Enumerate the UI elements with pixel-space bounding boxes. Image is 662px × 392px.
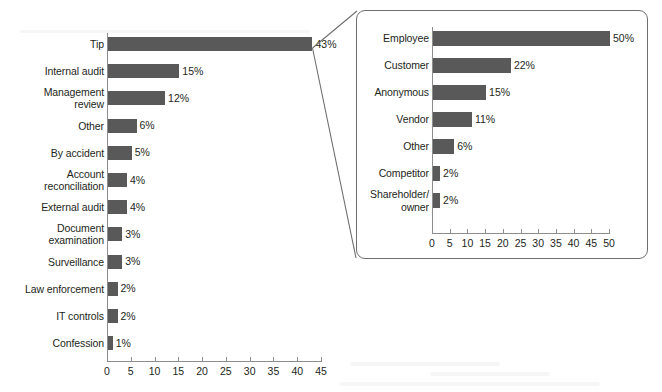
bar-value-label: 5% <box>135 147 150 158</box>
category-label: Employee <box>349 32 429 44</box>
bar-value-label: 15% <box>182 66 203 77</box>
bar <box>108 91 165 105</box>
x-axis-tick-label: 30 <box>532 238 544 249</box>
bar <box>108 37 312 51</box>
x-axis-tick <box>591 229 592 234</box>
bar-value-label: 12% <box>168 93 189 104</box>
x-axis-tick <box>574 229 575 234</box>
bar <box>108 119 137 133</box>
x-axis-tick <box>609 229 610 234</box>
category-label: Document examination <box>4 222 104 246</box>
bar-value-label: 11% <box>475 114 495 125</box>
category-label: Vendor <box>349 113 429 125</box>
bar-value-label: 3% <box>125 256 140 267</box>
x-axis-tick-label: 5 <box>128 366 134 377</box>
inset-callout-box <box>356 10 648 259</box>
scan-artifact <box>340 382 600 386</box>
x-axis-tick-label: 5 <box>447 238 453 249</box>
x-axis-tick <box>107 357 108 362</box>
bar <box>433 58 511 73</box>
x-axis-line <box>107 361 321 362</box>
category-label: Other <box>4 120 104 132</box>
bar <box>108 309 118 323</box>
scan-artifact <box>20 30 310 33</box>
figure-root: 051015202530354045Tip43%Internal audit15… <box>0 0 662 392</box>
x-axis-tick <box>178 357 179 362</box>
x-axis-tick <box>450 229 451 234</box>
bar-value-label: 2% <box>443 195 458 206</box>
x-axis-tick-label: 35 <box>268 366 280 377</box>
bar-value-label: 43% <box>315 39 336 50</box>
category-label: By accident <box>4 147 104 159</box>
bar-value-label: 2% <box>121 311 136 322</box>
category-label: Confession <box>4 337 104 349</box>
x-axis-tick-label: 15 <box>479 238 491 249</box>
category-label: Customer <box>349 59 429 71</box>
category-label: Account reconciliation <box>4 168 104 192</box>
x-axis-tick-label: 35 <box>550 238 562 249</box>
x-axis-tick <box>432 229 433 234</box>
bar <box>108 64 179 78</box>
bar <box>108 173 127 187</box>
bar <box>433 193 440 208</box>
x-axis-tick <box>226 357 227 362</box>
bar <box>433 112 472 127</box>
bar <box>433 139 454 154</box>
x-axis-tick-label: 30 <box>244 366 256 377</box>
x-axis-tick-label: 15 <box>172 366 184 377</box>
bar-value-label: 2% <box>443 168 458 179</box>
category-label: Shareholder/ owner <box>349 188 429 212</box>
bar-value-label: 4% <box>130 175 145 186</box>
x-axis-tick <box>521 229 522 234</box>
x-axis-tick-label: 0 <box>429 238 435 249</box>
x-axis-tick <box>321 357 322 362</box>
category-label: External audit <box>4 201 104 213</box>
x-axis-tick <box>485 229 486 234</box>
bar-value-label: 1% <box>116 338 131 349</box>
bar <box>433 166 440 181</box>
x-axis-tick <box>538 229 539 234</box>
x-axis-tick <box>155 357 156 362</box>
x-axis-tick-label: 45 <box>585 238 597 249</box>
x-axis-tick <box>503 229 504 234</box>
scan-artifact <box>430 372 550 376</box>
x-axis-tick-label: 45 <box>315 366 327 377</box>
x-axis-tick <box>297 357 298 362</box>
category-label: IT controls <box>4 310 104 322</box>
bar <box>108 227 122 241</box>
x-axis-tick-label: 20 <box>497 238 509 249</box>
bar <box>433 85 486 100</box>
category-label: Surveillance <box>4 256 104 268</box>
x-axis-tick-label: 40 <box>291 366 303 377</box>
x-axis-tick <box>202 357 203 362</box>
bar-value-label: 6% <box>457 141 472 152</box>
bar <box>108 146 132 160</box>
bar <box>108 336 113 350</box>
x-axis-tick <box>467 229 468 234</box>
bar-value-label: 22% <box>514 60 535 71</box>
x-axis-tick <box>250 357 251 362</box>
category-label: Competitor <box>349 167 429 179</box>
category-label: Anonymous <box>349 86 429 98</box>
category-label: Law enforcement <box>4 283 104 295</box>
x-axis-tick-label: 40 <box>568 238 580 249</box>
x-axis-tick-label: 25 <box>220 366 232 377</box>
x-axis-tick-label: 20 <box>196 366 208 377</box>
x-axis-tick-label: 10 <box>462 238 474 249</box>
bar <box>108 255 122 269</box>
bar-value-label: 2% <box>121 283 136 294</box>
x-axis-tick-label: 0 <box>104 366 110 377</box>
bar-value-label: 50% <box>613 33 634 44</box>
category-label: Internal audit <box>4 65 104 77</box>
bar <box>433 31 610 46</box>
x-axis-tick-label: 50 <box>603 238 615 249</box>
x-axis-tick <box>131 357 132 362</box>
x-axis-tick-label: 25 <box>515 238 527 249</box>
x-axis-tick <box>273 357 274 362</box>
category-label: Tip <box>4 38 104 50</box>
bar-value-label: 15% <box>489 87 510 98</box>
scan-artifact <box>350 362 500 366</box>
bar <box>108 282 118 296</box>
category-label: Other <box>349 140 429 152</box>
bar-value-label: 4% <box>130 202 145 213</box>
